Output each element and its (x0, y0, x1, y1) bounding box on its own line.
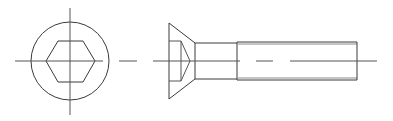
head-taper-bottom (169, 79, 195, 99)
end-view (15, 8, 137, 115)
technical-drawing (0, 0, 393, 121)
head-taper-top (169, 23, 195, 43)
side-view (153, 23, 377, 99)
